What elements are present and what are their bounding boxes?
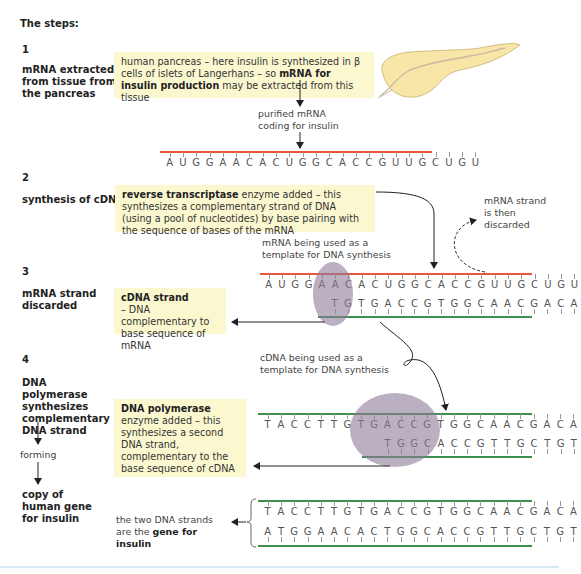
base: U [568, 279, 581, 290]
base: A [567, 419, 580, 430]
discard-arrow-icon [454, 220, 485, 272]
brace-icon [247, 499, 256, 547]
arrow-to-template [376, 192, 434, 268]
base: A [567, 506, 580, 517]
enzyme-ellipse-icon [313, 262, 353, 326]
polymerase-ellipse-icon [350, 393, 440, 467]
base: A [567, 298, 580, 309]
base: T [567, 438, 580, 449]
pancreas-illustration [378, 44, 520, 98]
base: T [567, 526, 580, 537]
